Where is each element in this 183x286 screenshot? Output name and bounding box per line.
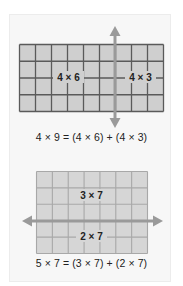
equation-4x9: 4 × 9 = (4 × 6) + (4 × 3)	[0, 131, 183, 143]
label-4x6: 4 × 6	[53, 71, 84, 83]
area-model-diagrams: 4 × 6 4 × 3 3 × 7 2 × 7	[0, 0, 183, 286]
svg-text:4 × 3: 4 × 3	[129, 72, 152, 83]
label-2x7: 2 × 7	[76, 230, 107, 242]
svg-text:3 × 7: 3 × 7	[80, 190, 103, 201]
equation-5x7: 5 × 7 = (3 × 7) + (2 × 7)	[0, 257, 183, 269]
svg-text:4 × 6: 4 × 6	[57, 72, 80, 83]
svg-text:2 × 7: 2 × 7	[80, 231, 103, 242]
label-4x3: 4 × 3	[125, 71, 156, 83]
label-3x7: 3 × 7	[76, 189, 107, 201]
